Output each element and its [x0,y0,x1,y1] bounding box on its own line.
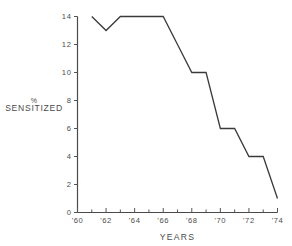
x-axis-title: YEARS [160,232,196,242]
x-tick-label: '62 [100,216,112,225]
x-tick-label: '60 [72,216,84,225]
y-tick-label: 2 [67,180,72,189]
x-tick-label: '64 [129,216,141,225]
plot-area: 02468101214 '60'62'64'66'68'70'72'74 YEA… [0,0,292,246]
x-tick-label: '74 [272,216,284,225]
x-tick-label: '66 [157,216,169,225]
y-tick-label: 8 [67,96,72,105]
y-tick-label: 6 [67,124,72,133]
data-series-group [92,17,278,199]
x-tick-label: '72 [243,216,255,225]
data-line-series-1 [92,17,278,199]
y-tick-label: 4 [67,152,72,161]
y-axis-ticks: 02468101214 [62,12,78,217]
y-tick-label: 12 [62,40,72,49]
chart-figure: % SENSITIZED 02468101214 '60'62'64'66'68… [0,0,292,246]
y-tick-label: 14 [62,12,72,21]
y-tick-label: 10 [62,68,72,77]
x-tick-label: '68 [186,216,198,225]
x-axis-ticks: '60'62'64'66'68'70'72'74 [72,208,284,225]
x-tick-label: '70 [215,216,227,225]
